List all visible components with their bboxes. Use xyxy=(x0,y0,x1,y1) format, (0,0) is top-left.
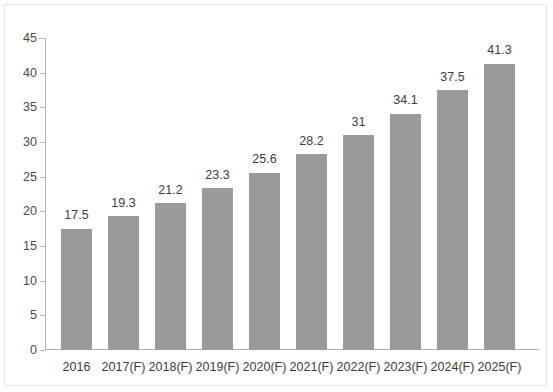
bar[interactable] xyxy=(108,216,139,350)
bar-group: 19.32017(F) xyxy=(100,38,147,350)
bar-group: 17.52016 xyxy=(53,38,100,350)
y-axis-tick xyxy=(39,38,45,39)
bar[interactable] xyxy=(437,90,468,350)
bar[interactable] xyxy=(155,203,186,350)
y-axis-tick xyxy=(40,177,45,178)
y-axis-tick-label: 35 xyxy=(23,101,37,114)
bar[interactable] xyxy=(249,173,280,350)
y-axis-tick-label: 45 xyxy=(23,32,37,45)
bar-value-label: 25.6 xyxy=(241,153,288,166)
y-axis-tick xyxy=(40,211,45,212)
y-axis-line xyxy=(45,38,46,350)
y-axis-tick-label: 0 xyxy=(30,344,37,357)
bar-value-label: 19.3 xyxy=(100,197,147,210)
y-axis-tick xyxy=(40,246,45,247)
bar-value-label: 28.2 xyxy=(288,135,335,148)
y-axis-tick xyxy=(40,107,45,108)
bar-value-label: 31 xyxy=(335,116,382,129)
bar-value-label: 23.3 xyxy=(194,169,241,182)
y-axis-tick-label: 20 xyxy=(23,205,37,218)
bar-value-label: 34.1 xyxy=(382,94,429,107)
bar[interactable] xyxy=(61,229,92,350)
bar-value-label: 41.3 xyxy=(476,44,523,57)
bar-value-label: 37.5 xyxy=(429,71,476,84)
bar-group: 34.12023(F) xyxy=(382,38,429,350)
bar-group: 23.32019(F) xyxy=(194,38,241,350)
y-axis-tick xyxy=(40,281,45,282)
y-axis-tick-label: 5 xyxy=(30,309,37,322)
y-axis-tick-label: 30 xyxy=(23,136,37,149)
bar[interactable] xyxy=(296,154,327,350)
plot-area: 051015202530354045 17.5201619.32017(F)21… xyxy=(45,38,539,350)
bar-value-label: 17.5 xyxy=(53,209,100,222)
y-axis-tick xyxy=(40,73,45,74)
y-axis-tick-label: 25 xyxy=(23,170,37,183)
bar[interactable] xyxy=(202,188,233,350)
bar-group: 41.32025(F) xyxy=(476,38,523,350)
y-axis-tick-label: 15 xyxy=(23,240,37,253)
chart-container: 051015202530354045 17.5201619.32017(F)21… xyxy=(4,4,547,386)
bar[interactable] xyxy=(390,114,421,350)
y-axis-tick xyxy=(40,142,45,143)
bar-group: 25.62020(F) xyxy=(241,38,288,350)
y-axis-tick xyxy=(40,350,45,351)
x-axis-category-label: 2025(F) xyxy=(472,361,527,374)
y-axis-tick-label: 40 xyxy=(23,66,37,79)
y-axis-tick-label: 10 xyxy=(23,274,37,287)
y-axis-tick xyxy=(40,315,45,316)
bar-value-label: 21.2 xyxy=(147,184,194,197)
bar[interactable] xyxy=(343,135,374,350)
bar[interactable] xyxy=(484,64,515,350)
bar-group: 21.22018(F) xyxy=(147,38,194,350)
bar-group: 312022(F) xyxy=(335,38,382,350)
bar-group: 37.52024(F) xyxy=(429,38,476,350)
bar-group: 28.22021(F) xyxy=(288,38,335,350)
